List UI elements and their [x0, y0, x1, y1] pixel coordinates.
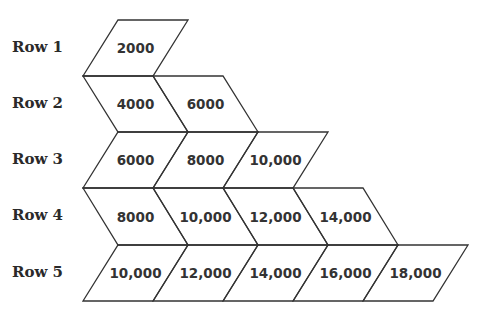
- cell-value: 6000: [187, 96, 225, 112]
- cell-value: 10,000: [109, 265, 161, 281]
- cell-value: 4000: [117, 96, 155, 112]
- parallelogram-cell: 14,000: [223, 245, 328, 301]
- parallelogram-cell: 16,000: [293, 245, 398, 301]
- cell-value: 8000: [187, 152, 225, 168]
- parallelogram-cell: 10,000: [153, 188, 258, 245]
- parallelogram-cell: 10,000: [83, 245, 188, 301]
- cell-value: 14,000: [319, 209, 371, 225]
- parallelogram-cell: 4000: [83, 76, 188, 132]
- parallelogram-cell: 14,000: [293, 188, 398, 245]
- parallelogram-cell: 8000: [153, 132, 258, 188]
- parallelogram-cell: 12,000: [153, 245, 258, 301]
- parallelogram-grid: 2000400060006000800010,000800010,00012,0…: [0, 0, 487, 321]
- parallelogram-cell: 6000: [83, 132, 188, 188]
- cell-value: 10,000: [179, 209, 231, 225]
- cell-value: 12,000: [179, 265, 231, 281]
- cell-value: 12,000: [249, 209, 301, 225]
- parallelogram-cell: 8000: [83, 188, 188, 245]
- cell-value: 16,000: [319, 265, 371, 281]
- cell-value: 2000: [117, 40, 155, 56]
- parallelogram-pattern-diagram: Row 1 Row 2 Row 3 Row 4 Row 5 2000400060…: [0, 0, 487, 321]
- cell-value: 8000: [117, 209, 155, 225]
- cell-value: 18,000: [389, 265, 441, 281]
- parallelogram-cell: 10,000: [223, 132, 328, 188]
- parallelogram-cell: 2000: [83, 20, 188, 76]
- parallelogram-cell: 18,000: [363, 245, 468, 301]
- cell-value: 10,000: [249, 152, 301, 168]
- parallelogram-cell: 6000: [153, 76, 258, 132]
- cell-value: 6000: [117, 152, 155, 168]
- parallelogram-cell: 12,000: [223, 188, 328, 245]
- cell-value: 14,000: [249, 265, 301, 281]
